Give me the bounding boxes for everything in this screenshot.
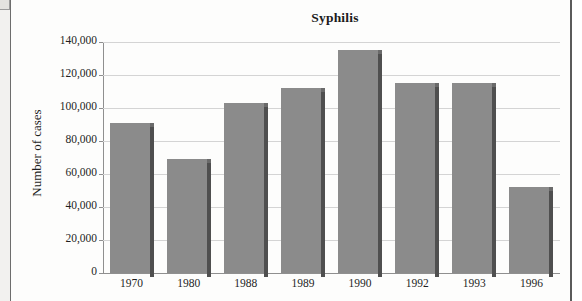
y-axis-tick-label: 100,000 xyxy=(35,100,97,112)
bar-shadow xyxy=(549,191,553,277)
bar-1989 xyxy=(281,88,321,273)
bar-1992 xyxy=(395,83,435,273)
bar-shadow-top xyxy=(321,88,325,92)
bar-shadow xyxy=(264,107,268,277)
plot-area xyxy=(103,42,560,273)
bar-1980 xyxy=(167,159,207,273)
bar-shadow xyxy=(435,87,439,277)
y-axis-tick xyxy=(99,141,103,142)
gridline xyxy=(103,75,560,76)
y-axis-tick xyxy=(99,273,103,274)
y-axis-tick-label: 80,000 xyxy=(35,133,97,145)
bar-shadow-top xyxy=(207,159,211,163)
y-axis-tick-label: 120,000 xyxy=(35,67,97,79)
bar-shadow-top xyxy=(150,123,154,127)
y-axis-tick xyxy=(99,42,103,43)
y-axis-tick-labels: 020,00040,00060,00080,000100,000120,0001… xyxy=(33,42,97,274)
bar-1996 xyxy=(509,187,549,273)
page-left-margin xyxy=(0,0,10,301)
y-axis-tick-label: 20,000 xyxy=(35,232,97,244)
bar-shadow-top xyxy=(492,83,496,87)
bar-1970 xyxy=(110,123,150,273)
bar-shadow-top xyxy=(435,83,439,87)
bar-1988 xyxy=(224,103,264,273)
bar-shadow xyxy=(378,54,382,277)
y-axis-tick xyxy=(99,207,103,208)
y-axis-tick-label: 60,000 xyxy=(35,166,97,178)
bar-shadow-top xyxy=(549,187,553,191)
bar-shadow xyxy=(321,92,325,277)
bar-shadow-top xyxy=(264,103,268,107)
x-axis-tick-labels: 19701980198819891990199219931996 xyxy=(103,277,560,297)
y-axis-tick xyxy=(99,240,103,241)
bar-shadow xyxy=(492,87,496,277)
gridline xyxy=(103,42,560,43)
page-left-border-line xyxy=(10,0,11,301)
y-axis-tick-label: 0 xyxy=(35,265,97,277)
scanned-page: Syphilis Number of cases 020,00040,00060… xyxy=(0,0,582,301)
y-axis-tick-label: 140,000 xyxy=(35,34,97,46)
page-corner-notch xyxy=(0,0,10,10)
y-axis-tick xyxy=(99,108,103,109)
bar-shadow xyxy=(207,163,211,277)
page-right-margin xyxy=(572,0,582,301)
y-axis-tick xyxy=(99,174,103,175)
bar-shadow-top xyxy=(378,50,382,54)
bar-1990 xyxy=(338,50,378,273)
bar-1993 xyxy=(452,83,492,273)
bar-shadow xyxy=(150,127,154,277)
y-axis-tick-label: 40,000 xyxy=(35,199,97,211)
chart-title: Syphilis xyxy=(95,10,575,26)
y-axis-tick xyxy=(99,75,103,76)
x-axis-tick-label-1996: 1996 xyxy=(491,277,571,289)
